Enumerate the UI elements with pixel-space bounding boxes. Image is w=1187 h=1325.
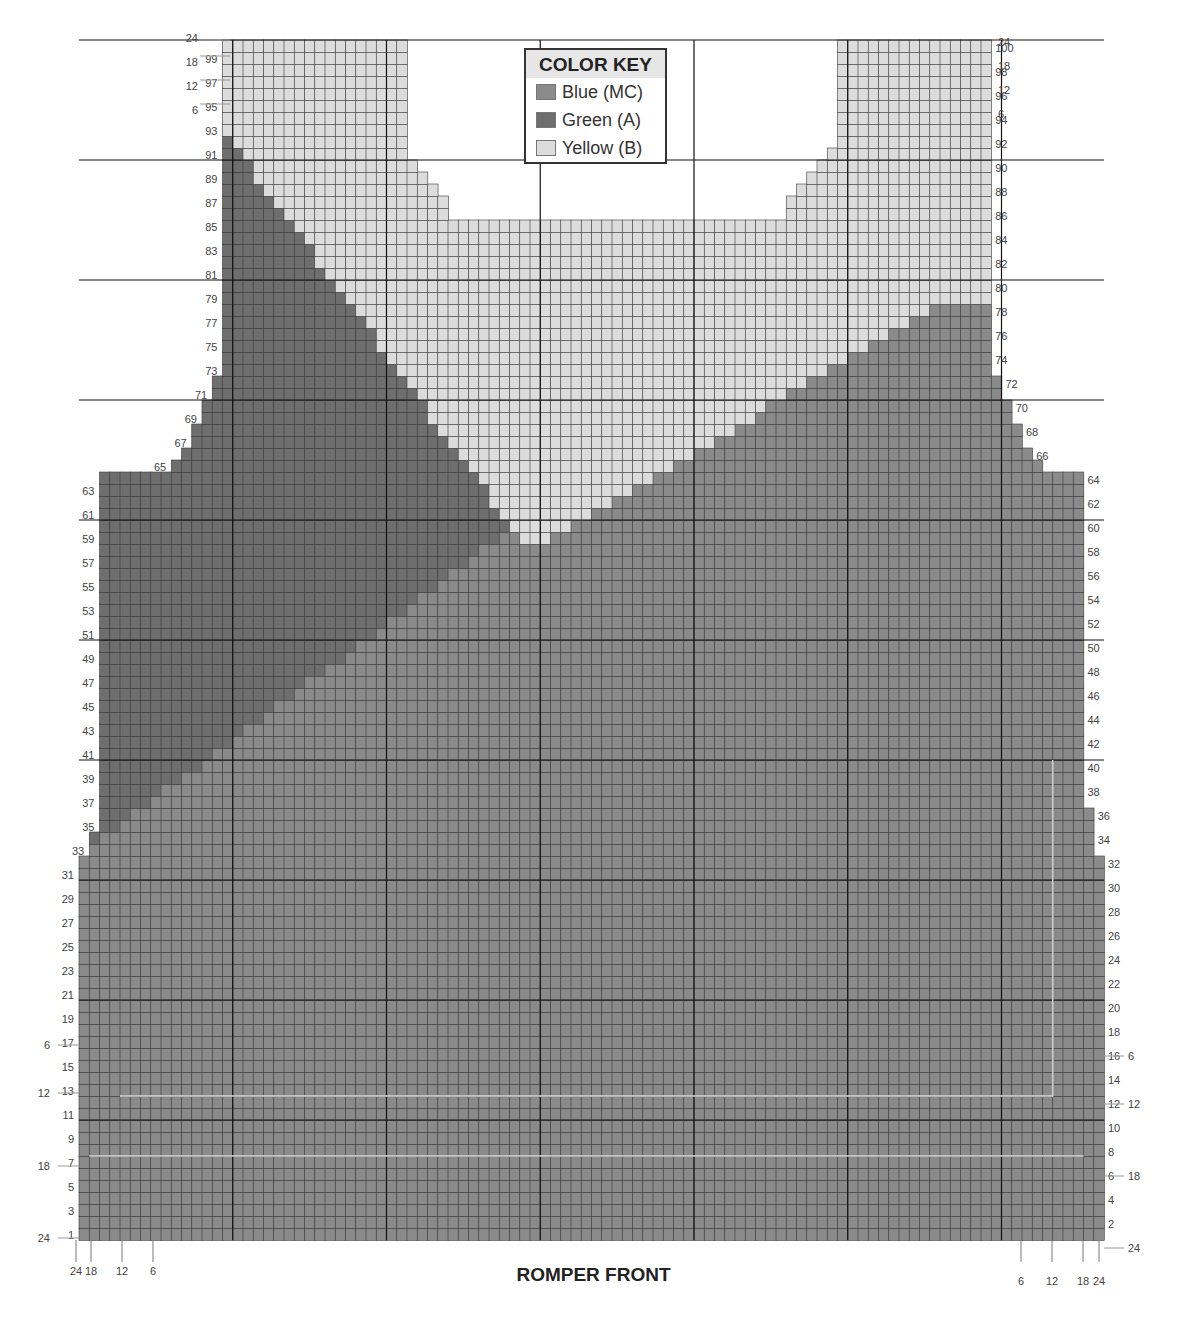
chart-cell (633, 952, 644, 964)
chart-cell (305, 544, 316, 556)
chart-cell (786, 1228, 797, 1240)
chart-cell (848, 508, 859, 520)
chart-cell (274, 184, 285, 196)
chart-cell (520, 1036, 531, 1048)
chart-cell (1002, 640, 1013, 652)
chart-cell (776, 352, 787, 364)
chart-cell (428, 748, 439, 760)
chart-cell (868, 772, 879, 784)
chart-cell (530, 1144, 541, 1156)
chart-cell (428, 556, 439, 568)
chart-cell (182, 784, 193, 796)
chart-cell (930, 196, 941, 208)
chart-cell (171, 916, 182, 928)
chart-cell (612, 448, 623, 460)
chart-cell (305, 844, 316, 856)
chart-cell (335, 1000, 346, 1012)
chart-cell (612, 244, 623, 256)
chart-cell (592, 820, 603, 832)
chart-cell (438, 988, 449, 1000)
chart-cell (397, 604, 408, 616)
chart-cell (848, 544, 859, 556)
chart-cell (981, 1096, 992, 1108)
chart-cell (612, 964, 623, 976)
chart-cell (602, 304, 613, 316)
chart-cell (499, 1012, 510, 1024)
chart-cell (592, 808, 603, 820)
chart-cell (663, 1072, 674, 1084)
chart-cell (735, 388, 746, 400)
chart-cell (223, 148, 234, 160)
chart-cell (663, 1192, 674, 1204)
chart-cell (899, 52, 910, 64)
chart-cell (346, 496, 357, 508)
chart-cell (253, 52, 264, 64)
chart-cell (981, 724, 992, 736)
chart-cell (879, 808, 890, 820)
chart-cell (305, 652, 316, 664)
chart-cell (171, 1132, 182, 1144)
chart-cell (335, 412, 346, 424)
chart-cell (622, 976, 633, 988)
chart-cell (346, 688, 357, 700)
chart-cell (233, 172, 244, 184)
chart-cell (397, 328, 408, 340)
chart-cell (110, 988, 121, 1000)
chart-cell (448, 892, 459, 904)
chart-cell (879, 256, 890, 268)
chart-cell (735, 520, 746, 532)
chart-cell (1012, 1000, 1023, 1012)
chart-cell (797, 724, 808, 736)
chart-cell (438, 832, 449, 844)
chart-cell (325, 892, 336, 904)
chart-cell (766, 1084, 777, 1096)
chart-cell (243, 244, 254, 256)
chart-cell (704, 748, 715, 760)
chart-cell (899, 1168, 910, 1180)
chart-cell (561, 1108, 572, 1120)
chart-cell (407, 316, 418, 328)
chart-cell (243, 388, 254, 400)
chart-cell (817, 208, 828, 220)
chart-cell (1002, 772, 1013, 784)
chart-cell (766, 460, 777, 472)
chart-cell (1032, 1144, 1043, 1156)
chart-cell (407, 1180, 418, 1192)
chart-cell (602, 640, 613, 652)
chart-cell (253, 1216, 264, 1228)
row-label-left: 65 (154, 461, 166, 473)
chart-cell (346, 196, 357, 208)
chart-cell (530, 1048, 541, 1060)
chart-cell (694, 400, 705, 412)
chart-cell (161, 1108, 172, 1120)
chart-cell (633, 340, 644, 352)
chart-cell (735, 1000, 746, 1012)
chart-cell (848, 148, 859, 160)
chart-cell (458, 724, 469, 736)
chart-cell (592, 976, 603, 988)
chart-cell (653, 460, 664, 472)
chart-cell (479, 532, 490, 544)
chart-cell (786, 1132, 797, 1144)
chart-cell (674, 880, 685, 892)
chart-cell (417, 184, 428, 196)
chart-cell (366, 304, 377, 316)
chart-cell (848, 448, 859, 460)
chart-cell (182, 1072, 193, 1084)
chart-cell (571, 1024, 582, 1036)
chart-cell (643, 580, 654, 592)
chart-cell (961, 1036, 972, 1048)
chart-cell (356, 256, 367, 268)
chart-cell (305, 1216, 316, 1228)
chart-cell (325, 568, 336, 580)
chart-cell (817, 184, 828, 196)
chart-cell (756, 556, 767, 568)
chart-cell (735, 1024, 746, 1036)
chart-cell (274, 328, 285, 340)
chart-cell (192, 616, 203, 628)
chart-cell (469, 304, 480, 316)
chart-cell (202, 1024, 213, 1036)
chart-cell (848, 352, 859, 364)
chart-cell (920, 256, 931, 268)
chart-cell (663, 1096, 674, 1108)
